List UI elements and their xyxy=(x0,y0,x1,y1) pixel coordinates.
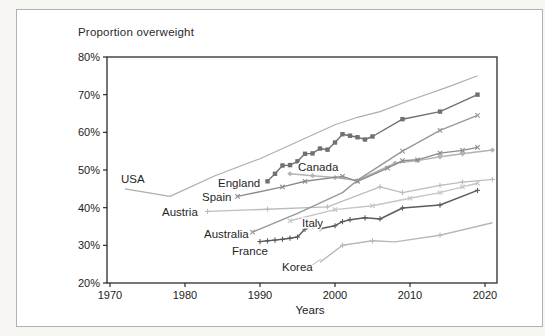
marker-diamond xyxy=(490,147,495,152)
marker-square xyxy=(370,134,374,138)
series-label-france: France xyxy=(232,245,268,257)
marker-square xyxy=(310,151,314,155)
series-label-italy: Italy xyxy=(302,217,323,229)
svg-text:30%: 30% xyxy=(78,239,100,251)
svg-text:Years: Years xyxy=(296,304,325,316)
series-korea xyxy=(311,223,493,266)
svg-text:2000: 2000 xyxy=(323,289,347,301)
series-label-england: England xyxy=(218,177,260,189)
marker-square xyxy=(363,137,367,141)
series-line xyxy=(125,76,478,197)
svg-text:1990: 1990 xyxy=(248,289,272,301)
svg-text:2010: 2010 xyxy=(398,289,422,301)
svg-text:70%: 70% xyxy=(78,89,100,101)
series-label-australia: Australia xyxy=(204,228,249,240)
series-label-korea: Korea xyxy=(282,261,313,273)
y-axis: 20%30%40%50%60%70%80% xyxy=(78,51,107,289)
marker-square xyxy=(333,140,337,144)
marker-square xyxy=(318,146,322,150)
marker-square xyxy=(475,92,479,96)
overweight-line-chart: 20%30%40%50%60%70%80%1970198019902000201… xyxy=(0,0,545,336)
x-axis: 197019801990200020102020Years xyxy=(98,283,497,316)
svg-text:80%: 80% xyxy=(78,51,100,63)
marker-square xyxy=(340,132,344,136)
series-line xyxy=(253,115,478,232)
series-line xyxy=(320,223,493,263)
series-label-austria: Austria xyxy=(162,206,198,218)
svg-text:20%: 20% xyxy=(78,277,100,289)
marker-square xyxy=(400,117,404,121)
svg-text:50%: 50% xyxy=(78,164,100,176)
chart-title: Proportion overweight xyxy=(78,26,194,38)
marker-square xyxy=(265,179,269,183)
series-label-spain: Spain xyxy=(202,191,231,203)
series-usa xyxy=(125,76,478,197)
marker-square xyxy=(288,163,292,167)
marker-square xyxy=(355,135,359,139)
series-label-usa: USA xyxy=(121,173,145,185)
marker-square xyxy=(280,163,284,167)
svg-text:2020: 2020 xyxy=(473,289,497,301)
svg-text:40%: 40% xyxy=(78,202,100,214)
marker-diamond xyxy=(310,173,315,178)
svg-text:1980: 1980 xyxy=(173,289,197,301)
marker-square xyxy=(348,134,352,138)
series-label-canada: Canada xyxy=(298,161,339,173)
svg-text:60%: 60% xyxy=(78,126,100,138)
marker-square xyxy=(438,109,442,113)
marker-square xyxy=(303,152,307,156)
svg-text:1970: 1970 xyxy=(98,289,122,301)
marker-square xyxy=(325,147,329,151)
marker-diamond xyxy=(287,171,292,176)
marker-square xyxy=(273,172,277,176)
